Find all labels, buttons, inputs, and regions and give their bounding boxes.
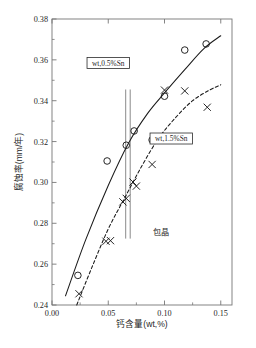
axes-rect [52,19,232,305]
y-axis-title: 腐蚀率(mm/年) [13,133,24,192]
peritectic-label: 包晶 [153,227,169,237]
y-tick-label: 0.38 [34,15,48,24]
figure-caption [0,339,256,348]
y-tick-label: 0.26 [34,260,48,269]
y-tick-label: 0.36 [34,56,48,65]
y-tick-label: 0.32 [34,138,48,147]
y-tick-label: 0.30 [34,178,48,187]
plot-frame [52,19,232,305]
y-tick-label: 0.28 [34,219,48,228]
figure-container: 0.000.050.100.150.240.260.280.300.320.34… [0,0,256,348]
corrosion-rate-vs-calcium-chart: 0.000.050.100.150.240.260.280.300.320.34… [0,0,256,348]
legend-box-series-2-text: wt,1.5%Sn [155,134,188,143]
x-axis-title: 钙含量(wt,%) [116,318,167,329]
y-tick-label: 0.34 [34,97,48,106]
x-tick-label: 0.15 [214,309,228,318]
legend-box-series-1-text: wt,0.5%Sn [92,59,125,68]
x-tick-label: 0.05 [101,309,115,318]
x-tick-label: 0.00 [45,309,59,318]
y-tick-label: 0.24 [34,301,48,310]
x-tick-label: 0.10 [157,309,171,318]
